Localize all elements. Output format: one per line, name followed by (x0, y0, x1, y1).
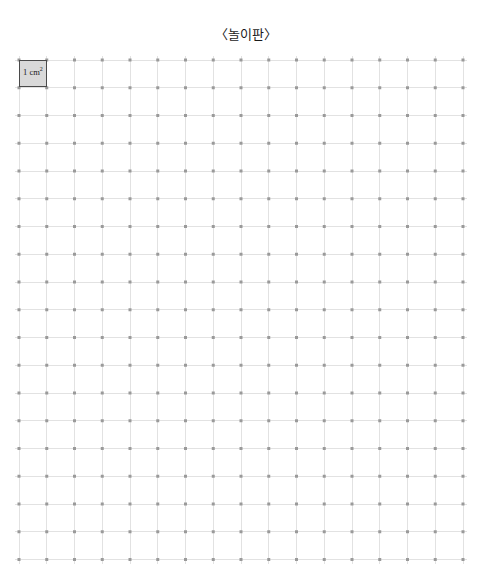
unit-area-label: 1 cm2 (23, 67, 43, 77)
unit-area-reference-cell: 1 cm2 (19, 60, 47, 88)
play-board-grid[interactable]: 1 cm2 (19, 60, 463, 560)
grid-lines-and-dots (13, 54, 469, 566)
unit-area-label-text: 1 cm (23, 67, 40, 77)
unit-area-label-exponent: 2 (40, 66, 43, 72)
page-title: 〈놀이판〉 (0, 27, 492, 43)
